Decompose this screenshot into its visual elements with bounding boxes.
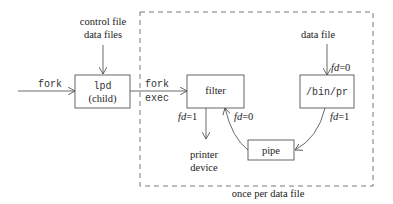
fd-filter-out: fd=1: [178, 111, 197, 122]
data-files-label: data files: [84, 29, 122, 40]
fd-pr-in: fd=0: [331, 62, 350, 73]
lpd-label: lpd: [93, 81, 111, 92]
data-file-label: data file: [301, 29, 335, 40]
exec-label: exec: [145, 93, 169, 104]
pr-to-pipe-arrow: [295, 108, 325, 150]
fork-in-label: fork: [38, 79, 62, 90]
fd-pr-out: fd=1: [330, 111, 349, 122]
lpd-filter-diagram: once per data file control file data fil…: [0, 0, 393, 204]
child-label: (child): [89, 93, 117, 105]
group-label: once per data file: [232, 188, 305, 199]
fd-filter-in: fd=0: [234, 111, 253, 122]
fork-label: fork: [145, 79, 169, 90]
device-label: device: [190, 162, 218, 173]
pipe-label: pipe: [262, 145, 280, 156]
bin-pr-label: /bin/pr: [306, 87, 348, 98]
control-file-label: control file: [80, 16, 127, 27]
filter-label: filter: [205, 85, 226, 96]
printer-label: printer: [190, 149, 218, 160]
